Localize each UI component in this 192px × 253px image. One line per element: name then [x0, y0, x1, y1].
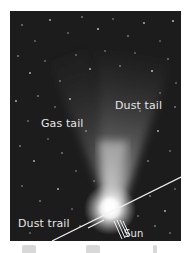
dust-trail-label: Dust trail — [18, 218, 70, 230]
cropped-caption-remnant — [0, 242, 192, 253]
glyph-fragment — [86, 245, 100, 253]
glyph-fragment — [153, 245, 157, 253]
sun-label: Sun — [124, 228, 143, 240]
gas-tail-label: Gas tail — [41, 118, 83, 130]
dust-tail-label: Dust tail — [115, 100, 162, 112]
glyph-fragment — [22, 245, 36, 253]
nucleus-core — [104, 198, 116, 216]
comet-photo: Dust tail Gas tail Dust trail Sun — [10, 11, 181, 241]
comet-illustration — [10, 11, 181, 241]
